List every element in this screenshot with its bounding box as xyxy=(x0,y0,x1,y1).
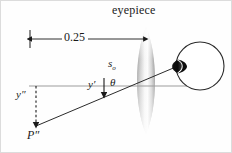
object-distance-label: so xyxy=(108,58,116,72)
eyepiece-label: eyepiece xyxy=(112,4,156,16)
image-point-label: P″ xyxy=(27,129,39,141)
image-height-label: y″ xyxy=(16,89,25,100)
angle-theta-label: θ xyxy=(110,77,115,88)
object-distance-subscript: o xyxy=(112,64,116,72)
dimension-value-label: 0.25 xyxy=(62,31,87,43)
optics-ray-diagram: eyepiece 0.25 so y′ θ y″ P″ xyxy=(0,0,232,153)
object-height-label: y′ xyxy=(88,79,95,90)
